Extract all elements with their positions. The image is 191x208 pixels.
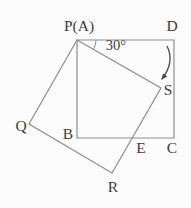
vertex-label-c: C xyxy=(167,140,177,156)
vertex-label-b: B xyxy=(63,126,73,142)
angle-arc xyxy=(93,40,96,50)
geometry-figure: P(A) D 30° S Q B E C R xyxy=(0,0,191,208)
vertex-label-p-a: P(A) xyxy=(64,18,94,34)
square-ABCD xyxy=(77,40,174,138)
figure-canvas xyxy=(0,0,191,208)
vertex-label-d: D xyxy=(166,18,177,34)
rotation-arrow xyxy=(162,46,170,79)
vertex-label-r: R xyxy=(108,179,118,195)
vertex-label-s: S xyxy=(164,82,173,98)
vertex-label-q: Q xyxy=(15,118,26,134)
vertex-label-e: E xyxy=(136,140,145,156)
angle-label: 30° xyxy=(106,38,126,53)
